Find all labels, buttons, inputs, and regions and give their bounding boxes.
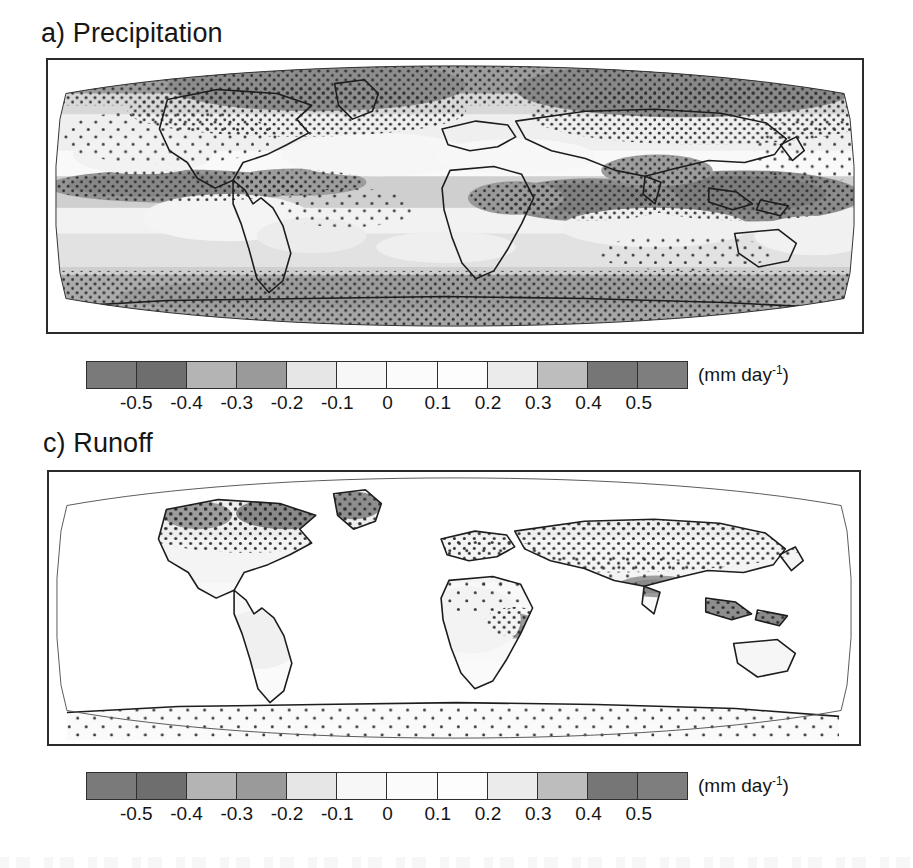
colorbar-cell bbox=[488, 362, 538, 388]
colorbar-tick-label: -0.5 bbox=[120, 803, 153, 825]
runoff-map bbox=[47, 470, 861, 746]
colorbar-tick-label: -0.1 bbox=[321, 803, 354, 825]
colorbar-tick-label: 0.1 bbox=[425, 803, 451, 825]
colorbar-tick-label: 0.1 bbox=[425, 392, 451, 414]
runoff-map-canvas bbox=[49, 472, 859, 744]
colorbar-cell bbox=[538, 773, 588, 799]
precipitation-map bbox=[46, 58, 864, 334]
colorbar-cell bbox=[237, 362, 287, 388]
colorbar-tick-label: -0.4 bbox=[170, 803, 203, 825]
colorbar-cell bbox=[187, 773, 237, 799]
colorbar-cell bbox=[387, 773, 437, 799]
colorbar-tick-label: 0 bbox=[382, 392, 393, 414]
colorbar-cell bbox=[137, 773, 187, 799]
precipitation-colorbar bbox=[86, 361, 688, 389]
colorbar-cell bbox=[638, 362, 687, 388]
colorbar-tick-label: 0.2 bbox=[475, 803, 501, 825]
colorbar-cell bbox=[588, 362, 638, 388]
precipitation-colorbar-group: -0.5-0.4-0.3-0.2-0.100.10.20.30.40.5 (mm… bbox=[86, 361, 689, 416]
colorbar-tick-label: 0.5 bbox=[626, 803, 652, 825]
colorbar-cell bbox=[337, 362, 387, 388]
colorbar-cell bbox=[538, 362, 588, 388]
colorbar-tick-label: -0.4 bbox=[170, 392, 203, 414]
precipitation-map-canvas bbox=[48, 60, 862, 332]
runoff-colorbar-units: (mm day-1) bbox=[698, 774, 789, 797]
colorbar-tick-label: -0.3 bbox=[220, 803, 253, 825]
runoff-colorbar bbox=[86, 772, 688, 800]
scan-caption-artifact bbox=[0, 857, 913, 868]
colorbar-tick-label: 0.3 bbox=[525, 392, 551, 414]
colorbar-cell bbox=[187, 362, 237, 388]
colorbar-tick-label: -0.3 bbox=[220, 392, 253, 414]
runoff-colorbar-group: -0.5-0.4-0.3-0.2-0.100.10.20.30.40.5 (mm… bbox=[86, 772, 689, 827]
precipitation-colorbar-units: (mm day-1) bbox=[698, 363, 789, 386]
colorbar-cell bbox=[638, 773, 687, 799]
colorbar-tick-label: 0.5 bbox=[626, 392, 652, 414]
colorbar-cell bbox=[237, 773, 287, 799]
colorbar-tick-label: 0.4 bbox=[575, 392, 601, 414]
colorbar-cell bbox=[87, 362, 137, 388]
colorbar-tick-label: -0.1 bbox=[321, 392, 354, 414]
colorbar-tick-label: 0 bbox=[382, 803, 393, 825]
precip-globe-field bbox=[48, 60, 862, 332]
colorbar-cell bbox=[387, 362, 437, 388]
colorbar-tick-label: -0.2 bbox=[271, 803, 304, 825]
colorbar-tick-label: 0.4 bbox=[575, 803, 601, 825]
colorbar-tick-label: -0.2 bbox=[271, 392, 304, 414]
runoff-colorbar-ticklabels: -0.5-0.4-0.3-0.2-0.100.10.20.30.40.5 bbox=[86, 803, 689, 827]
colorbar-cell bbox=[438, 773, 488, 799]
colorbar-cell bbox=[488, 773, 538, 799]
colorbar-tick-label: 0.2 bbox=[475, 392, 501, 414]
panel-a-title: a) Precipitation bbox=[41, 18, 223, 49]
colorbar-cell bbox=[287, 773, 337, 799]
panel-c-title: c) Runoff bbox=[43, 428, 153, 459]
climate-figure: a) Precipitation bbox=[0, 0, 913, 868]
colorbar-cell bbox=[438, 362, 488, 388]
colorbar-tick-label: 0.3 bbox=[525, 803, 551, 825]
precipitation-colorbar-ticklabels: -0.5-0.4-0.3-0.2-0.100.10.20.30.40.5 bbox=[86, 392, 689, 416]
colorbar-cell bbox=[137, 362, 187, 388]
colorbar-cell bbox=[87, 773, 137, 799]
colorbar-cell bbox=[287, 362, 337, 388]
colorbar-cell bbox=[588, 773, 638, 799]
colorbar-tick-label: -0.5 bbox=[120, 392, 153, 414]
colorbar-cell bbox=[337, 773, 387, 799]
